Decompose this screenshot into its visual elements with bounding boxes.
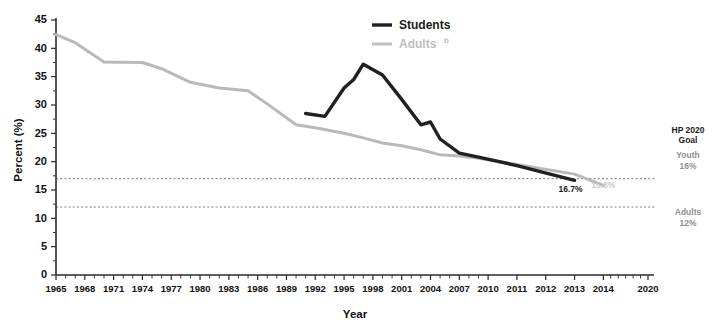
series-line-students [306,64,575,180]
x-tick-label-1965: 1965 [45,283,67,294]
y-tick-label-10: 10 [35,212,47,224]
goal-adults-value: 12% [679,218,696,228]
x-tick-label-1977: 1977 [161,283,182,294]
goal-heading-line1: HP 2020 [672,125,705,135]
y-axis-title: Percent (%) [12,118,24,181]
legend-superscript-adults: b [444,36,449,45]
x-tick-label-1989: 1989 [276,283,297,294]
x-tick-label-1986: 1986 [247,283,268,294]
data-series-group [56,35,603,186]
x-tick-label-2020: 2020 [637,283,658,294]
y-tick-label-20: 20 [35,155,47,167]
goal-heading-line2: Goal [679,135,698,145]
y-tick-label-15: 15 [35,183,47,195]
y-tick-label-35: 35 [35,70,47,82]
y-tick-label-5: 5 [41,240,47,252]
goal-adults-name: Adults [675,207,702,217]
hp-2020-goal-annotation: HP 2020 Goal Youth 16% Adults 12% [672,125,705,228]
goal-youth-name: Youth [676,150,699,160]
axis-group [56,18,654,275]
x-tick-label-2014: 2014 [593,283,615,294]
x-tick-label-2011: 2011 [507,283,528,294]
y-tick-label-45: 45 [35,13,47,25]
x-tick-label-2007: 2007 [449,283,470,294]
x-axis-ticks: 1965196819711974197719801983198619891992… [45,275,658,294]
cigarette-use-trend-chart: 051015202530354045 196519681971197419771… [0,0,718,327]
x-tick-label-2004: 2004 [420,283,442,294]
y-tick-label-25: 25 [35,127,47,139]
x-tick-label-2013: 2013 [564,283,585,294]
x-tick-label-1974: 1974 [132,283,154,294]
chart-legend: Students Adults b [372,18,451,51]
x-axis-title: Year [343,308,368,320]
x-tick-label-1995: 1995 [334,283,356,294]
x-tick-label-1971: 1971 [103,283,125,294]
x-tick-label-1968: 1968 [74,283,95,294]
goal-youth-value: 16% [679,161,696,171]
x-tick-label-2012: 2012 [535,283,556,294]
students-end-label: 16.7% [558,184,583,194]
y-tick-label-0: 0 [41,268,47,280]
chart-container: 051015202530354045 196519681971197419771… [0,0,718,327]
y-tick-label-30: 30 [35,98,47,110]
x-tick-label-2001: 2001 [391,283,413,294]
y-tick-label-40: 40 [35,42,47,54]
x-tick-label-1992: 1992 [305,283,326,294]
legend-label-students: Students [399,18,451,32]
x-tick-label-1998: 1998 [362,283,383,294]
x-tick-label-1980: 1980 [189,283,210,294]
annotation-labels-group: 16.7%15.8% [558,180,615,194]
legend-label-adults: Adults [399,37,437,51]
y-axis-ticks: 051015202530354045 [35,13,56,280]
adults-end-label: 15.8% [591,180,616,190]
x-tick-label-2010: 2010 [478,283,499,294]
x-tick-label-1983: 1983 [218,283,239,294]
